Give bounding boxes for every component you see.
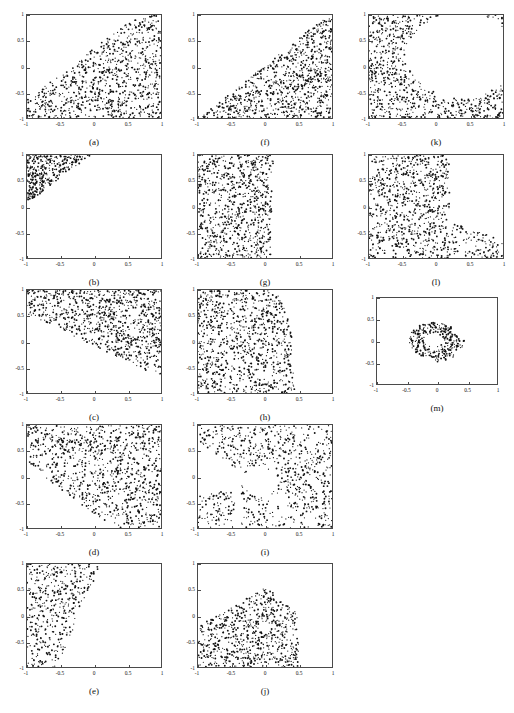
- y-tickmark: [198, 181, 201, 182]
- x-tick-label: 0.5: [296, 670, 303, 676]
- x-tickmark: [129, 526, 130, 529]
- y-tickmark: [198, 155, 201, 156]
- x-tick-label: 1: [161, 670, 164, 676]
- x-tickmark: [95, 526, 96, 529]
- y-tick-label: -0.5: [352, 90, 366, 96]
- plot-area-l: [368, 154, 504, 259]
- y-tick-label: -1: [10, 391, 24, 397]
- y-tick-label: -0.5: [10, 365, 24, 371]
- x-tick-label: 1: [503, 261, 506, 267]
- x-tickmark: [61, 526, 62, 529]
- x-tick-label: -0.5: [56, 261, 65, 267]
- x-tickmark: [300, 526, 301, 529]
- plot-area-i: [197, 424, 333, 529]
- x-tickmark: [300, 256, 301, 259]
- x-tick-label: 0: [93, 396, 96, 402]
- x-tick-label: -1: [195, 670, 200, 676]
- x-tick-label: -1: [195, 261, 200, 267]
- y-tickmark: [27, 369, 30, 370]
- y-tick-label: 1: [181, 11, 195, 17]
- y-tick-label: 1: [10, 560, 24, 566]
- y-tickmark: [369, 234, 372, 235]
- x-tick-label: 0.5: [296, 531, 303, 537]
- x-tick-label: 0: [93, 670, 96, 676]
- y-tick-label: 0: [181, 613, 195, 619]
- x-tickmark: [198, 391, 199, 394]
- y-tickmark: [377, 364, 380, 365]
- x-tick-label: -1: [24, 396, 29, 402]
- scatter-panel-b: -1-0.500.5110.50-0.5-1(b): [26, 154, 162, 287]
- y-tick-label: 0.5: [10, 586, 24, 592]
- y-tickmark: [198, 94, 201, 95]
- y-tickmark: [198, 564, 201, 565]
- panel-caption-a: (a): [89, 137, 99, 148]
- x-tickmark: [300, 116, 301, 119]
- y-tick-label: 1: [352, 151, 366, 157]
- x-tickmark: [232, 256, 233, 259]
- y-tickmark: [377, 342, 380, 343]
- x-tickmark: [198, 526, 199, 529]
- x-tickmark: [129, 391, 130, 394]
- x-tickmark: [232, 665, 233, 668]
- x-tickmark: [300, 391, 301, 394]
- y-tickmark: [369, 41, 372, 42]
- y-tickmark: [27, 564, 30, 565]
- x-tickmark: [403, 256, 404, 259]
- y-tick-label: 0.5: [352, 37, 366, 43]
- panel-caption-d: (d): [89, 547, 100, 558]
- y-tickmark: [198, 316, 201, 317]
- x-tick-label: -1: [195, 531, 200, 537]
- scatter-panel-m: -1-0.500.5110.50-0.5-1(m): [376, 297, 498, 413]
- x-tick-label: -0.5: [56, 670, 65, 676]
- x-tick-label: -1: [24, 121, 29, 127]
- x-tickmark: [266, 256, 267, 259]
- x-tick-label: 0: [264, 396, 267, 402]
- scatter-panel-a: -1-0.500.5110.50-0.5-1(a): [26, 14, 162, 147]
- x-tickmark: [129, 665, 130, 668]
- x-tick-label: 0: [264, 531, 267, 537]
- x-tick-label: 0: [93, 121, 96, 127]
- x-tick-label: -1: [195, 121, 200, 127]
- x-tickmark: [27, 665, 28, 668]
- x-tick-label: 1: [332, 670, 335, 676]
- y-tick-label: 0.5: [10, 447, 24, 453]
- x-tickmark: [377, 382, 378, 385]
- y-tick-label: 1: [352, 11, 366, 17]
- y-tick-label: 0: [10, 64, 24, 70]
- y-tickmark: [27, 155, 30, 156]
- y-tick-label: -1: [10, 256, 24, 262]
- panel-caption-h: (h): [260, 412, 271, 423]
- x-tick-label: -1: [374, 387, 379, 393]
- x-tickmark: [408, 382, 409, 385]
- y-tick-label: 0: [181, 339, 195, 345]
- y-tick-label: 0: [181, 474, 195, 480]
- x-tick-label: -0.5: [402, 387, 411, 393]
- y-tick-label: 1: [181, 286, 195, 292]
- x-tickmark: [95, 665, 96, 668]
- y-tick-label: -0.5: [10, 500, 24, 506]
- y-tick-label: -1: [181, 665, 195, 671]
- panel-caption-e: (e): [89, 686, 99, 697]
- y-tick-label: 0.5: [10, 37, 24, 43]
- x-tick-label: 0.5: [296, 396, 303, 402]
- y-tickmark: [198, 234, 201, 235]
- x-tick-label: -0.5: [227, 261, 236, 267]
- y-tickmark: [198, 290, 201, 291]
- x-tickmark: [95, 391, 96, 394]
- y-tickmark: [198, 478, 201, 479]
- x-tick-label: 0: [435, 121, 438, 127]
- y-tick-label: 0.5: [360, 316, 374, 322]
- x-tick-label: -1: [366, 121, 371, 127]
- y-tick-label: 0.5: [10, 177, 24, 183]
- x-tickmark: [27, 256, 28, 259]
- y-tickmark: [27, 15, 30, 16]
- y-tickmark: [198, 208, 201, 209]
- scatter-panel-j: -1-0.500.5110.50-0.5-1(j): [197, 563, 333, 696]
- x-tick-label: 1: [161, 121, 164, 127]
- x-tickmark: [198, 256, 199, 259]
- x-tickmark: [27, 116, 28, 119]
- x-tick-label: 1: [161, 531, 164, 537]
- x-tickmark: [198, 665, 199, 668]
- y-tickmark: [369, 155, 372, 156]
- x-tick-label: 0.5: [125, 396, 132, 402]
